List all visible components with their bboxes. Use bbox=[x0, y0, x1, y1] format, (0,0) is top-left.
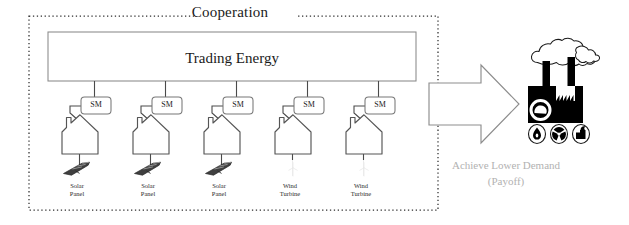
smart-meter-label: SM bbox=[365, 101, 395, 110]
source-label-line2: Turbine bbox=[331, 190, 391, 198]
source-label-line2: Turbine bbox=[260, 190, 320, 198]
source-label-line1: Solar bbox=[47, 182, 107, 190]
wind-stem-faint bbox=[293, 160, 364, 176]
hazard-badges bbox=[529, 125, 590, 144]
wind-turbine-icon bbox=[289, 163, 297, 176]
smart-meter-label: SM bbox=[223, 101, 253, 110]
factory-chimney bbox=[543, 61, 551, 86]
source-label-line1: Solar bbox=[189, 182, 249, 190]
generation-icons bbox=[64, 162, 369, 176]
radiation-icon bbox=[551, 125, 568, 144]
source-label-line2: Panel bbox=[189, 190, 249, 198]
right-block-arrow-icon bbox=[429, 65, 519, 143]
wind-turbine-icon bbox=[360, 163, 368, 176]
source-label-line2: Panel bbox=[47, 190, 107, 198]
coal-plant-icon bbox=[573, 125, 590, 144]
payoff-caption-line2: (Payoff) bbox=[416, 176, 596, 188]
house-icon[interactable] bbox=[275, 115, 311, 154]
factory-sawtooth-roof bbox=[556, 95, 574, 101]
solar-panel-icon bbox=[64, 162, 90, 175]
diagram-canvas: Cooperation Trading Energy SM SM SM SM S… bbox=[0, 0, 629, 225]
house-icon[interactable] bbox=[204, 115, 240, 154]
oil-drop-icon bbox=[529, 125, 546, 144]
house-icon[interactable] bbox=[133, 115, 169, 154]
solar-panel-icon bbox=[206, 162, 232, 175]
trading-energy-label: Trading Energy bbox=[48, 50, 416, 66]
source-label-line1: Wind bbox=[331, 182, 391, 190]
smart-meter-label: SM bbox=[294, 101, 324, 110]
payoff-caption-line1: Achieve Lower Demand bbox=[416, 160, 596, 172]
house-icon[interactable] bbox=[62, 115, 98, 154]
smart-meter-label: SM bbox=[81, 101, 111, 110]
house-icon[interactable] bbox=[346, 115, 382, 154]
solar-panel-icon bbox=[135, 162, 161, 175]
page-title: Cooperation bbox=[0, 4, 460, 20]
smart-meter-label: SM bbox=[152, 101, 182, 110]
factory-chimney bbox=[568, 57, 576, 86]
source-label-line1: Wind bbox=[260, 182, 320, 190]
house-icons bbox=[62, 115, 382, 154]
source-label-line2: Panel bbox=[118, 190, 178, 198]
source-label-line1: Solar bbox=[118, 182, 178, 190]
polluting-factory-icon bbox=[528, 38, 600, 143]
